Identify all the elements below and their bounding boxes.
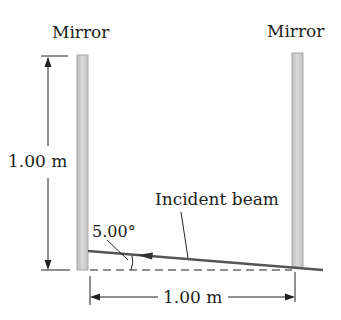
angle-arc bbox=[131, 255, 133, 270]
mirror-right bbox=[292, 53, 303, 268]
arrow-up-icon bbox=[45, 57, 52, 67]
mirror-left bbox=[77, 55, 88, 270]
arrow-left-icon bbox=[90, 294, 100, 301]
angle-leader-line bbox=[107, 240, 128, 260]
diagram-svg: Mirror Mirror 1.00 m 5.00° Incident beam bbox=[0, 0, 341, 320]
mirror-right-label: Mirror bbox=[267, 21, 325, 41]
arrow-down-icon bbox=[45, 260, 52, 270]
incident-beam bbox=[88, 251, 323, 270]
mirror-left-label: Mirror bbox=[52, 22, 110, 42]
height-dimension-label: 1.00 m bbox=[8, 151, 67, 171]
incident-beam-leader-line bbox=[181, 212, 188, 258]
angle-label: 5.00° bbox=[92, 222, 136, 241]
incident-beam-label: Incident beam bbox=[155, 189, 279, 209]
mirror-diagram: Mirror Mirror 1.00 m 5.00° Incident beam bbox=[0, 0, 341, 320]
width-dimension-label: 1.00 m bbox=[163, 287, 222, 307]
arrow-right-icon bbox=[285, 294, 295, 301]
